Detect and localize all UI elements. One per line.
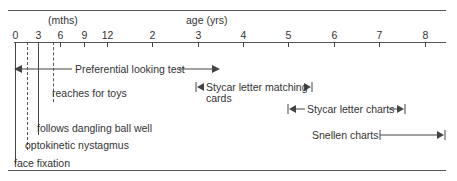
snellen-label: Snellen charts — [312, 129, 379, 141]
stycar-cards-label-2: cards — [206, 92, 232, 104]
stycar-charts-label: Stycar letter charts — [307, 103, 395, 115]
preferential-label: Preferential looking test — [75, 63, 185, 75]
